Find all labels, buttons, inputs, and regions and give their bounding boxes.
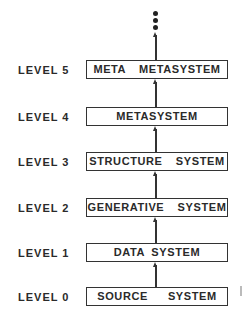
arrow-up-icon xyxy=(155,174,157,198)
level-0-box: SOURCE SYSTEM xyxy=(86,287,228,306)
arrow-up-icon xyxy=(155,265,157,287)
level-5-label: LEVEL 5 xyxy=(18,60,80,80)
arrow-up-icon xyxy=(155,82,157,107)
arrow-up-icon xyxy=(155,220,157,243)
level-1-label: LEVEL 1 xyxy=(18,243,80,263)
arrow-up-icon xyxy=(155,129,157,152)
arrow-up-icon xyxy=(155,35,157,60)
level-3-label: LEVEL 3 xyxy=(18,152,80,172)
level-1-box: DATA SYSTEM xyxy=(86,243,228,262)
level-0-label: LEVEL 0 xyxy=(18,287,80,307)
level-4-box: METASYSTEM xyxy=(86,107,228,126)
dot-icon xyxy=(153,11,158,16)
level-3-box: STRUCTURE SYSTEM xyxy=(86,152,228,171)
level-4-label: LEVEL 4 xyxy=(18,107,80,127)
level-5-box: META METASYSTEM xyxy=(86,60,228,79)
dot-icon xyxy=(153,18,158,23)
scan-edge-mark xyxy=(240,286,242,296)
level-2-label: LEVEL 2 xyxy=(18,198,80,218)
dot-icon xyxy=(153,25,158,30)
level-2-box: GENERATIVE SYSTEM xyxy=(86,198,228,217)
